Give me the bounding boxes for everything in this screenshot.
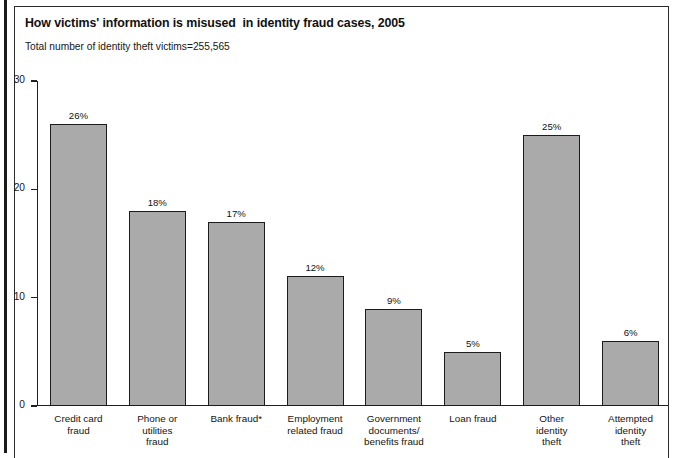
bar-value-label: 26% — [50, 110, 107, 121]
chart-title: How victims' information is misused in i… — [25, 16, 625, 30]
x-axis-category-label: Otheridentitytheft — [510, 413, 593, 448]
x-axis-category-label: Phone orutilitiesfraud — [116, 413, 199, 448]
y-axis-tick-label: 20 — [0, 182, 25, 193]
x-axis-category-label: Loan fraud — [431, 413, 514, 425]
bar[interactable] — [365, 309, 422, 407]
bar-value-label: 17% — [208, 208, 265, 219]
bar[interactable] — [602, 341, 659, 406]
y-axis-tick — [31, 405, 37, 406]
y-axis-tick — [31, 80, 37, 81]
y-axis-tick-label: 30 — [0, 74, 25, 85]
y-axis-tick-label: 0 — [0, 399, 25, 410]
bar[interactable] — [287, 276, 344, 406]
y-axis-line — [37, 81, 38, 406]
bar[interactable] — [523, 135, 580, 406]
chart-subtitle: Total number of identity theft victims=2… — [25, 41, 525, 52]
bar-value-label: 9% — [365, 295, 422, 306]
y-axis-tick — [31, 189, 37, 190]
y-axis-tick-label: 10 — [0, 291, 25, 302]
plot-area: 010203026%Credit cardfraud18%Phone oruti… — [37, 81, 668, 406]
x-axis-category-label: Bank fraud* — [195, 413, 278, 425]
y-axis-tick — [31, 297, 37, 298]
x-axis-category-label: Governmentdocuments/benefits fraud — [352, 413, 435, 448]
x-axis-category-label: Credit cardfraud — [37, 413, 120, 436]
bar-value-label: 18% — [129, 197, 186, 208]
bar-value-label: 25% — [523, 121, 580, 132]
bar-value-label: 6% — [602, 327, 659, 338]
bar-value-label: 5% — [444, 338, 501, 349]
bar[interactable] — [129, 211, 186, 406]
bar[interactable] — [444, 352, 501, 406]
x-axis-category-label: Employmentrelated fraud — [274, 413, 357, 436]
bar[interactable] — [208, 222, 265, 406]
page-edge-rule — [4, 0, 7, 453]
bar[interactable] — [50, 124, 107, 406]
x-axis-category-label: Attemptedidentitytheft — [589, 413, 672, 448]
bar-value-label: 12% — [287, 262, 344, 273]
